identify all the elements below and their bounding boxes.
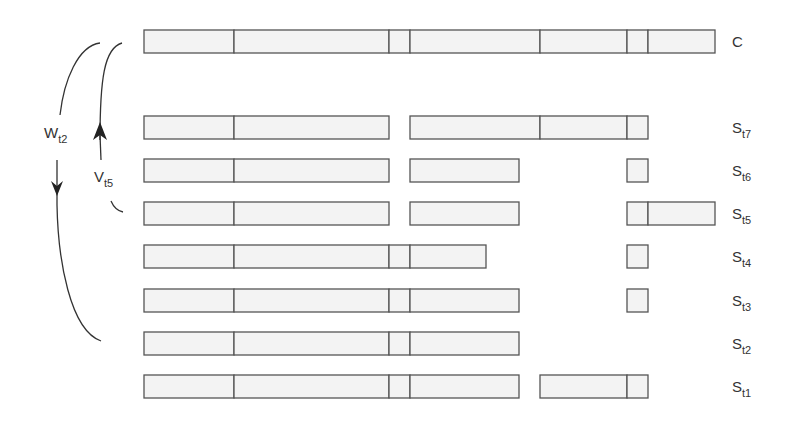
row-label-s1: St1 <box>732 378 751 399</box>
bitmap-segment <box>410 202 519 225</box>
bitmap-segment <box>234 332 389 355</box>
row-label-c: C <box>732 33 743 50</box>
bitmap-segment <box>389 332 410 355</box>
bitmap-row-s2: St2 <box>144 332 751 356</box>
bitmap-segment <box>144 30 234 53</box>
row-label-s2: St2 <box>732 335 751 356</box>
row-label-s7: St7 <box>732 119 751 140</box>
w-label: Wt2 <box>44 124 67 145</box>
bitmap-segment <box>144 289 234 312</box>
bitmap-row-s5: St5 <box>144 202 751 226</box>
bitmap-segment <box>389 30 410 53</box>
v-arrow-curve-top <box>100 43 122 140</box>
bitmap-segment <box>234 289 389 312</box>
bitmap-segment <box>627 202 648 225</box>
bitmap-segment <box>410 159 519 182</box>
bitmap-segment <box>627 159 648 182</box>
v-arrow-shaft <box>100 135 101 160</box>
bitmap-segment <box>144 245 234 268</box>
bitmap-segment <box>234 375 389 398</box>
bitmap-segment <box>627 375 648 398</box>
bitmap-row-c: C <box>144 30 743 53</box>
bitmap-segment <box>144 375 234 398</box>
bitmap-segment <box>627 30 648 53</box>
bitmap-segment <box>144 159 234 182</box>
bitmap-segment <box>627 289 648 312</box>
v-label: Vt5 <box>94 168 113 189</box>
bitmap-segment <box>648 30 715 53</box>
bitmap-segment <box>410 30 540 53</box>
bitmap-segment <box>410 245 486 268</box>
v-arrow: Vt5 <box>93 43 123 212</box>
bitmap-segment <box>234 30 389 53</box>
bitmap-segment <box>389 245 410 268</box>
v-arrow-curve-bottom <box>111 201 123 212</box>
bitmap-segment <box>627 245 648 268</box>
bitmap-segment <box>410 289 519 312</box>
bitmap-segment <box>234 116 389 139</box>
bitmap-segment <box>389 289 410 312</box>
row-label-s6: St6 <box>732 162 751 183</box>
bitmap-segment <box>389 375 410 398</box>
bitmap-rows: CSt7St6St5St4St3St2St1 <box>144 30 751 399</box>
bitmap-segment <box>144 332 234 355</box>
bitmap-row-s7: St7 <box>144 116 751 140</box>
bitmap-row-s4: St4 <box>144 245 751 269</box>
bitmap-segment <box>627 116 648 139</box>
bitmap-segment <box>540 375 627 398</box>
bitmap-segment <box>410 332 519 355</box>
bitmap-segment <box>234 202 389 225</box>
bitmap-row-s6: St6 <box>144 159 751 183</box>
w-arrow-curve-bottom <box>57 160 101 341</box>
w-arrow: Wt2 <box>44 43 101 341</box>
bitmap-segment <box>410 116 540 139</box>
w-arrow-curve-top <box>60 43 100 115</box>
bitmap-segment <box>410 375 519 398</box>
bitmap-segment <box>234 159 389 182</box>
bitmap-segment <box>540 116 627 139</box>
bitmap-segment <box>144 116 234 139</box>
row-label-s4: St4 <box>732 248 751 269</box>
bitmap-segment <box>540 30 627 53</box>
row-label-s5: St5 <box>732 205 751 226</box>
bitmap-diagram: CSt7St6St5St4St3St2St1 Wt2 Vt5 <box>0 0 789 424</box>
bitmap-segment <box>144 202 234 225</box>
bitmap-segment <box>234 245 389 268</box>
row-label-s3: St3 <box>732 292 751 313</box>
bitmap-segment <box>648 202 715 225</box>
bitmap-row-s3: St3 <box>144 289 751 313</box>
bitmap-row-s1: St1 <box>144 375 751 399</box>
